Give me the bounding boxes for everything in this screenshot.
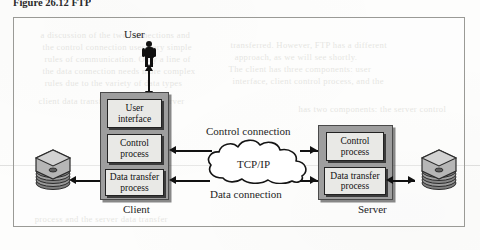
client-ui-line2: interface	[118, 114, 151, 124]
server-data-transfer-process-box: Data transfer process	[324, 167, 386, 195]
server-dt-line1: Data transfer	[330, 171, 379, 181]
data-connection-label: Data connection	[210, 188, 282, 200]
client-data-transfer-process-box: Data transfer process	[105, 169, 164, 196]
server-disk-link-arrowhead-in	[386, 176, 393, 184]
client-dt-line1: Data transfer	[110, 172, 159, 182]
server-host: Control process Data transfer process	[318, 125, 393, 200]
figure-caption: Figure 26.12 FTP	[13, 0, 91, 8]
client-label: Client	[123, 203, 150, 215]
control-link-server-arrowhead	[310, 146, 317, 154]
data-link-server-arrowhead	[310, 176, 317, 184]
disk-stack-icon	[412, 146, 466, 192]
client-control-process-box: Control process	[107, 134, 162, 163]
client-host: User interface Control process Data tran…	[100, 92, 169, 200]
user-label: User	[124, 28, 145, 40]
user-to-interface-arrow	[148, 70, 150, 92]
disk-stack-icon	[26, 146, 80, 192]
network-label: TCP/IP	[237, 158, 270, 170]
control-connection-label: Control connection	[206, 125, 291, 137]
server-dt-line2: process	[341, 181, 370, 191]
control-link-client-line	[176, 150, 212, 152]
data-link-client-line	[176, 180, 210, 182]
server-label: Server	[358, 203, 387, 215]
client-dt-line2: process	[120, 183, 149, 193]
client-ui-line1: User	[126, 103, 144, 113]
server-cp-line1: Control	[340, 136, 369, 146]
client-cp-line2: process	[120, 149, 149, 159]
figure-canvas: a discussion of the two connections and …	[0, 0, 480, 250]
server-cp-line2: process	[341, 147, 370, 157]
client-cp-line1: Control	[120, 138, 149, 148]
client-user-interface-box: User interface	[107, 99, 162, 128]
server-control-process-box: Control process	[326, 132, 384, 161]
data-link-client-arrowhead	[169, 176, 176, 184]
control-link-client-arrowhead	[169, 146, 176, 154]
